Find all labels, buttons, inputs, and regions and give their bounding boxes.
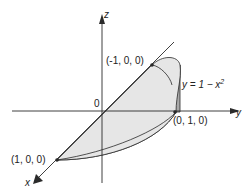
x-axis-label: x xyxy=(24,177,31,188)
z-axis-label: z xyxy=(103,9,109,20)
point-one-y xyxy=(173,110,177,114)
diagram-canvas: z y x 0 (-1, 0, 0) (0, 1, 0) (1, 0, 0) y… xyxy=(0,0,249,191)
point-one-x xyxy=(55,158,59,162)
point-minus-one-x xyxy=(150,63,154,67)
y-axis-label: y xyxy=(235,107,242,118)
point-label-minus-one-x: (-1, 0, 0) xyxy=(106,55,144,66)
x-axis-arrow-icon xyxy=(33,174,43,184)
curve-label: y = 1 − x2 xyxy=(181,78,224,90)
point-label-one-x: (1, 0, 0) xyxy=(11,154,45,165)
origin-label: 0 xyxy=(94,98,100,109)
point-label-one-y: (0, 1, 0) xyxy=(173,115,207,126)
